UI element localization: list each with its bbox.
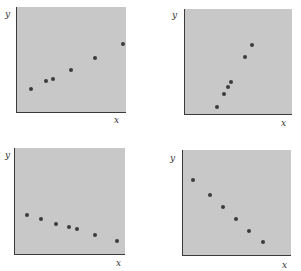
data-point bbox=[93, 56, 97, 60]
x-axis-label: x bbox=[282, 261, 287, 270]
data-point bbox=[261, 240, 265, 244]
data-point bbox=[25, 213, 29, 217]
scatter-plot-2 bbox=[184, 9, 292, 115]
data-point bbox=[51, 77, 55, 81]
data-point bbox=[191, 178, 195, 182]
y-axis-label: y bbox=[5, 151, 10, 160]
y-axis-label: y bbox=[5, 10, 10, 19]
data-point bbox=[229, 80, 233, 84]
data-point bbox=[93, 233, 97, 237]
data-point bbox=[54, 222, 58, 226]
x-axis-label: x bbox=[116, 259, 121, 268]
x-axis-label: x bbox=[281, 119, 286, 128]
data-point bbox=[226, 85, 230, 89]
scatter-plot-1 bbox=[16, 7, 126, 113]
data-point bbox=[208, 193, 212, 197]
data-point bbox=[75, 227, 79, 231]
data-point bbox=[39, 217, 43, 221]
data-point bbox=[243, 55, 247, 59]
data-point bbox=[234, 217, 238, 221]
data-point bbox=[115, 239, 119, 243]
x-axis-label: x bbox=[114, 116, 119, 125]
data-point bbox=[250, 43, 254, 47]
scatter-plot-4 bbox=[182, 150, 291, 256]
data-point bbox=[44, 79, 48, 83]
data-point bbox=[221, 205, 225, 209]
data-point bbox=[69, 68, 73, 72]
y-axis-label: y bbox=[170, 154, 175, 163]
y-axis-label: y bbox=[172, 11, 177, 20]
data-point bbox=[215, 105, 219, 109]
scatter-plot-3 bbox=[14, 148, 125, 255]
data-point bbox=[29, 87, 33, 91]
data-point bbox=[222, 92, 226, 96]
data-point bbox=[121, 42, 125, 46]
data-point bbox=[67, 225, 71, 229]
data-point bbox=[247, 229, 251, 233]
